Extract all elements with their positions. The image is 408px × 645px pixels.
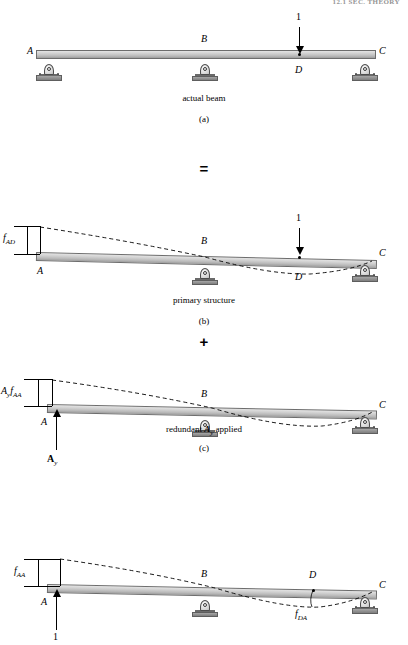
support-bolt-left [355,606,357,608]
dim-extension-c [52,379,53,406]
support-bolt-right [57,73,59,75]
reaction-label-ay: Ay [47,453,57,467]
operator-plus: + [0,333,408,350]
support-b-rocker [192,59,218,81]
support-pin-hole [47,67,51,71]
support-bolt-right [373,606,375,608]
label-point-c-b: C [379,247,386,258]
point-marker-d-d [312,589,315,592]
label-point-b: B [201,33,207,44]
point-marker-d-b [298,256,301,259]
panel-a-actual-beam: A B C 1 D actual beam (a) [0,0,408,145]
dim-tick-top-d [24,559,60,560]
label-point-b-c: B [201,388,207,399]
panel-b-letter: (b) [0,316,408,326]
label-point-d-d: D [309,569,316,580]
label-point-b-d: B [201,568,207,579]
support-bolt-right [373,73,375,75]
support-bolt-left [355,73,357,75]
label-point-c: C [379,45,386,56]
panel-c-redundant-applied: AyfAA A Ay B C redundant Ay applied (c) [0,358,408,488]
label-point-d-b: D [295,271,302,282]
dim-tick-bottom-c [24,406,52,407]
dim-extension-d [60,559,61,586]
reaction-subscript-y: y [54,459,57,467]
dim-label-faa: fAA [14,565,25,579]
dim-label-ay-faa: AyfAA [1,385,22,399]
deflection-curve-d [0,528,408,645]
support-pin-hole [203,271,207,275]
support-pin-hole [363,600,367,604]
label-point-c-d: C [379,579,386,590]
support-a-pin [36,59,62,81]
dim-line-c [38,379,39,406]
support-pin-hole [203,67,207,71]
defl-subscript-da: DA [298,614,307,622]
support-b-rocker [192,595,218,617]
support-bolt-left [39,73,41,75]
operator-equals: = [0,160,408,177]
support-c-pin [352,592,378,614]
beam-bar-a [36,50,376,59]
support-bolt-right [373,274,375,276]
dim-subscript-aa: AA [17,571,26,579]
support-pin-hole [363,268,367,272]
support-base-plate [192,76,218,81]
load-value-b: 1 [296,212,301,223]
load-arrow-down-a [299,27,300,47]
panel-d-unit-load-case: fAA A 1 B C D fDA [0,528,408,645]
panel-a-letter: (a) [0,114,408,124]
caption-suffix: applied [213,424,242,434]
deflection-label-fda: fDA [295,608,307,622]
panel-a-caption: actual beam [0,93,408,103]
point-marker-d-a [298,53,301,56]
support-pin-hole [363,67,367,71]
label-point-a-b: A [37,265,43,276]
support-base-plate [192,612,218,617]
load-arrow-up-d [56,596,57,630]
support-b-rocker [192,263,218,285]
caption-prefix: redundant [166,424,204,434]
dim-line-b [27,226,28,254]
support-base-plate [192,280,218,285]
support-c-pin [352,59,378,81]
dim-subscript-aa: AA [13,391,22,399]
dim-subscript-ad: AD [6,238,15,246]
load-value-d: 1 [53,631,58,642]
support-c-pin [352,260,378,282]
load-value-a: 1 [296,11,301,22]
label-point-a: A [27,45,33,56]
label-point-c-c: C [379,399,386,410]
support-pin-hole [203,603,207,607]
dim-extension-b [40,226,41,254]
dim-label-fad: fAD [3,232,15,246]
panel-c-caption: redundant Ay applied [0,424,408,437]
label-point-d-a: D [295,64,302,75]
support-bolt-left [355,274,357,276]
panel-b-primary-structure: fAD A B C 1 D primary structure (b) [0,205,408,335]
dim-tick-bottom-b [14,254,40,255]
label-point-a-d: A [41,596,47,607]
panel-b-caption: primary structure [0,295,408,305]
dim-tick-bottom-d [24,586,60,587]
dim-line-d [38,559,39,586]
label-point-b-b: B [201,235,207,246]
panel-c-letter: (c) [0,443,408,453]
load-arrow-down-b [299,228,300,248]
